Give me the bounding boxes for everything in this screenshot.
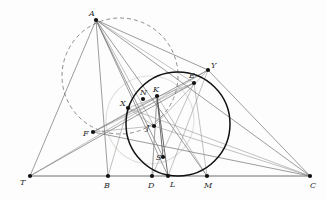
geometry-figure-container: ATBDLMCFXNKJSEY <box>0 0 326 200</box>
segment-AJ <box>96 20 154 126</box>
segment-KM <box>157 96 207 176</box>
point-label-Y: Y <box>211 61 217 70</box>
point-label-L: L <box>169 180 175 189</box>
point-label-S: S <box>156 153 162 162</box>
segment-TY <box>30 70 208 176</box>
point-label-D: D <box>147 181 155 190</box>
segment-AC <box>96 20 310 176</box>
segment-XE <box>128 83 194 108</box>
segment-layer <box>30 20 310 176</box>
point-label-M: M <box>203 181 213 190</box>
point-N <box>141 97 145 101</box>
segment-XJ <box>128 108 154 126</box>
point-label-F: F <box>82 129 89 138</box>
point-label-X: X <box>119 99 126 108</box>
point-B <box>106 174 110 178</box>
point-label-N: N <box>139 88 148 97</box>
point-label-K: K <box>152 85 160 94</box>
segment-AB <box>96 20 108 176</box>
point-L <box>166 174 170 178</box>
segment-XC <box>128 108 310 176</box>
segment-AT <box>30 20 96 176</box>
point-label-E: E <box>188 71 195 80</box>
point-D <box>150 174 154 178</box>
point-T <box>28 174 32 178</box>
segment-AY <box>96 20 208 70</box>
segment-EM <box>194 83 207 176</box>
point-E <box>192 81 196 85</box>
point-A <box>94 18 98 22</box>
point-label-A: A <box>88 9 95 18</box>
point-M <box>205 174 209 178</box>
point-J <box>152 124 156 128</box>
point-C <box>308 174 312 178</box>
label-layer: ATBDLMCFXNKJSEY <box>20 9 316 190</box>
point-layer <box>28 18 312 178</box>
point-label-J: J <box>144 123 150 132</box>
point-X <box>126 106 130 110</box>
segment-YC <box>208 70 310 176</box>
point-F <box>91 130 95 134</box>
point-label-C: C <box>310 181 316 190</box>
point-Y <box>206 68 210 72</box>
segment-JY <box>154 70 208 126</box>
point-label-T: T <box>20 178 26 187</box>
geometry-diagram: ATBDLMCFXNKJSEY <box>0 0 326 200</box>
point-label-B: B <box>103 181 110 190</box>
segment-AM <box>96 20 207 176</box>
point-S <box>161 155 165 159</box>
point-K <box>155 94 159 98</box>
